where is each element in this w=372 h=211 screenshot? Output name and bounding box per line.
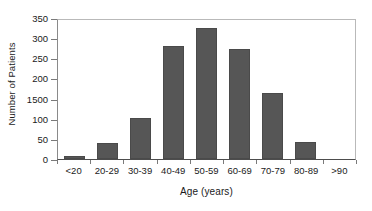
bar-slot — [289, 18, 322, 159]
bar-slot — [190, 18, 223, 159]
bar-chart-figure: Number of Patients 050100150020025030035… — [0, 0, 372, 211]
bar-slot — [157, 18, 190, 159]
bar[interactable] — [295, 142, 316, 159]
y-tick-label: 1500 — [4, 95, 48, 105]
x-tick-label: 60-69 — [223, 164, 256, 178]
bar[interactable] — [196, 28, 217, 159]
bar-slot — [223, 18, 256, 159]
bar[interactable] — [97, 143, 118, 159]
bar[interactable] — [130, 118, 151, 159]
bar-slot — [322, 18, 355, 159]
bar[interactable] — [64, 156, 85, 159]
y-tick-label: 50 — [4, 135, 48, 145]
plot-area — [57, 19, 356, 160]
bar-slot — [124, 18, 157, 159]
y-tick-label: 250 — [4, 54, 48, 64]
y-tick-label: 300 — [4, 34, 48, 44]
bar-slot — [256, 18, 289, 159]
x-tick-label: 30-39 — [123, 164, 156, 178]
x-tick-label: 40-49 — [157, 164, 190, 178]
bar-series — [58, 18, 355, 159]
bar-slot — [91, 18, 124, 159]
x-tick-label: <20 — [57, 164, 90, 178]
x-axis-title: Age (years) — [57, 186, 356, 197]
x-tick-label: 20-29 — [90, 164, 123, 178]
y-tick-label: 100 — [4, 115, 48, 125]
x-axis-tick-labels: <2020-2930-3940-4950-5960-6970-7980-89>9… — [57, 164, 356, 178]
bar-slot — [58, 18, 91, 159]
bar[interactable] — [229, 49, 250, 159]
x-tick-mark — [356, 160, 357, 164]
bar[interactable] — [163, 46, 184, 159]
y-tick-label: 200 — [4, 74, 48, 84]
y-tick-label: 350 — [4, 14, 48, 24]
x-tick-label: 50-59 — [190, 164, 223, 178]
bar[interactable] — [262, 93, 283, 159]
x-tick-label: >90 — [323, 164, 356, 178]
x-tick-label: 80-89 — [290, 164, 323, 178]
x-tick-label: 70-79 — [256, 164, 289, 178]
y-tick-label: 0 — [4, 155, 48, 165]
